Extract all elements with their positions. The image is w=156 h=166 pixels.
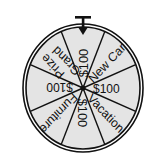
wheel-svg: $100New Car$100Vacation$100Furniture$100… — [0, 0, 156, 166]
sector-label--100: $100 — [46, 80, 73, 94]
wheel-hub — [80, 85, 85, 90]
wheel-body: $100New Car$100Vacation$100Furniture$100… — [23, 24, 143, 152]
sector-label-text: $100 — [46, 80, 73, 94]
prize-wheel-diagram: $100New Car$100Vacation$100Furniture$100… — [0, 0, 156, 166]
